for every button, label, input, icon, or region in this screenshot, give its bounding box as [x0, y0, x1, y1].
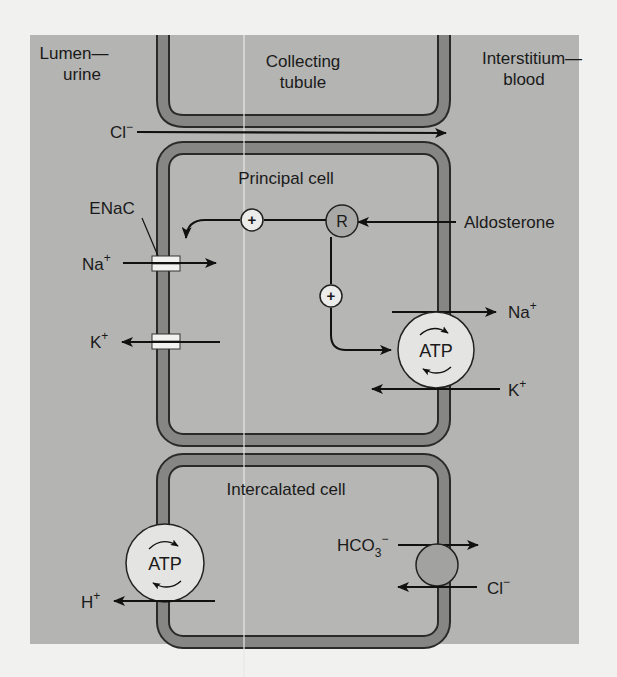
anion-exchanger: [416, 544, 458, 586]
interstitium-label-2: blood: [503, 70, 545, 89]
aldosterone-label: Aldosterone: [464, 213, 555, 232]
svg-text:ATP: ATP: [148, 554, 182, 574]
svg-text:+: +: [248, 211, 257, 228]
enac-label: ENaC: [89, 199, 134, 218]
tubule-label: Collecting: [266, 52, 341, 71]
lumen-label-2: urine: [63, 65, 101, 84]
diagram-stage: Lumen— urine Collecting tubule Interstit…: [0, 0, 617, 677]
h-atpase-pump: ATP: [126, 524, 204, 602]
na-k-atpase-pump: ATP: [398, 312, 474, 388]
paracellular-cl-arrow: [137, 132, 446, 133]
tubule-label-2: tubule: [280, 73, 326, 92]
lumen-label: Lumen—: [40, 44, 109, 63]
svg-text:R: R: [336, 213, 348, 230]
svg-text:+: +: [327, 287, 336, 304]
svg-text:ATP: ATP: [419, 341, 453, 361]
plus-icon-pump: +: [320, 285, 342, 307]
intercalated-cell-title: Intercalated cell: [226, 480, 345, 499]
principal-cell-title: Principal cell: [238, 169, 333, 188]
plus-icon-enac: +: [241, 209, 263, 231]
interstitium-label: Interstitium—: [482, 49, 582, 68]
receptor-r: R: [326, 205, 358, 237]
principal-cell-membrane: [163, 148, 444, 440]
collecting-tubule-diagram: Lumen— urine Collecting tubule Interstit…: [0, 0, 617, 677]
